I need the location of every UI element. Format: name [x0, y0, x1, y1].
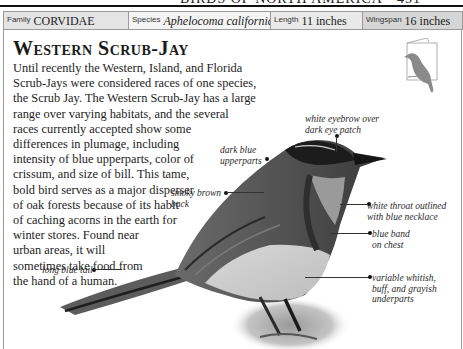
annotation-underparts: variable whitish, buff, and grayish unde… [372, 273, 437, 305]
annotation-line: dark blue [220, 145, 262, 156]
leader-dot [368, 275, 372, 279]
annotation-line: on chest [372, 240, 410, 251]
annotation-line: white eyebrow over [305, 114, 379, 125]
wingspan-label: Wingspan [366, 15, 402, 24]
leader-dot [368, 231, 372, 235]
frame-left-border [3, 30, 4, 349]
species-cell: Species Aphelocoma californica [129, 12, 271, 29]
leader-line [336, 136, 337, 152]
wingspan-value: 16 inches [405, 14, 451, 29]
annotation-line: blue band [372, 229, 410, 240]
annotation-line: long blue tail [42, 265, 93, 276]
info-bar: Family CORVIDAE Species Aphelocoma calif… [3, 11, 463, 30]
annotation-line: white throat outlined [367, 201, 446, 212]
description-line: Until recently the Western, Island, and … [13, 61, 238, 76]
frame-right-border [461, 30, 462, 349]
annotation-line: back [171, 199, 221, 210]
page-title: Western Scrub-Jay [13, 37, 189, 60]
length-label: Length [274, 15, 298, 24]
leader-line [330, 233, 370, 234]
family-label: Family [7, 15, 31, 24]
leader-line [94, 269, 122, 270]
species-label: Species [132, 15, 160, 24]
family-value: CORVIDAE [34, 14, 95, 29]
perched-bird-silhouette-icon [400, 38, 442, 100]
leader-dot [265, 157, 269, 161]
leader-dot [367, 202, 371, 206]
annotation-chest: blue band on chest [372, 229, 410, 250]
length-value: 11 inches [301, 14, 346, 29]
leader-line [340, 204, 367, 205]
wingspan-cell: Wingspan 16 inches [363, 12, 462, 29]
description-line: Scrub-Jays were considered races of one … [13, 76, 238, 91]
top-rule [0, 5, 463, 7]
annotation-line: upperparts [220, 156, 262, 167]
annotation-eyebrow: white eyebrow over dark eye patch [305, 114, 379, 135]
leader-line [305, 277, 369, 278]
annotation-upperparts: dark blue upperparts [220, 145, 262, 166]
description-line: the Scrub Jay. The Western Scrub-Jay has… [13, 91, 238, 106]
annotation-line: variable whitish, [372, 273, 437, 284]
annotation-line: buff, and grayish [372, 284, 437, 295]
annotation-tail: long blue tail [42, 265, 93, 276]
annotation-line: dark eye patch [305, 125, 379, 136]
family-cell: Family CORVIDAE [4, 12, 129, 29]
leader-line [226, 192, 264, 193]
annotation-line: smoky brown [171, 188, 221, 199]
annotation-throat: white throat outlined with blue necklace [367, 201, 446, 222]
annotation-back: smoky brown back [171, 188, 221, 209]
annotation-line: underparts [372, 294, 437, 305]
length-cell: Length 11 inches [271, 12, 363, 29]
species-value: Aphelocoma californica [163, 14, 271, 29]
description-line: range over varying habitats, and the sev… [13, 107, 238, 122]
annotation-line: with blue necklace [367, 212, 446, 223]
